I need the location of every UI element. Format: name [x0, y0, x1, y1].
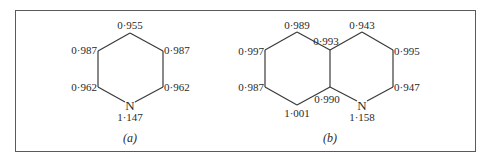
value-b-left-top: 0·989	[284, 19, 310, 31]
panel-b: 0·989 0·997 0·987 1·001 0·993 0·990 0·94…	[238, 19, 420, 145]
value-b-right-lower-right: 0·947	[394, 81, 420, 93]
caption-a: (a)	[123, 131, 137, 145]
value-b-nitrogen: 1·158	[349, 111, 375, 123]
value-b-right-upper-right: 0·995	[394, 45, 420, 57]
value-b-left-lower-left: 0·987	[238, 81, 264, 93]
value-a-upper-left: 0·987	[71, 44, 97, 56]
molecule-diagram: 0·955 0·987 0·987 0·962 0·962 N 1·147 (a…	[0, 0, 492, 159]
panel-a: 0·955 0·987 0·987 0·962 0·962 N 1·147 (a…	[71, 19, 190, 145]
value-a-lower-left: 0·962	[71, 81, 97, 93]
pyridine-ring-bonds-b	[330, 32, 393, 101]
value-b-right-top: 0·943	[349, 19, 375, 31]
value-b-left-upper-left: 0·997	[238, 45, 264, 57]
value-b-left-bottom: 1·001	[284, 107, 310, 119]
caption-b: (b)	[323, 131, 337, 145]
value-b-fusion-bottom: 0·990	[314, 93, 340, 105]
value-b-fusion-top: 0·993	[313, 35, 339, 47]
value-a-top: 0·955	[117, 19, 143, 31]
value-a-lower-right: 0·962	[164, 81, 190, 93]
value-a-upper-right: 0·987	[164, 44, 190, 56]
value-a-nitrogen: 1·147	[117, 111, 143, 123]
pyridine-ring-bonds	[98, 33, 163, 102]
